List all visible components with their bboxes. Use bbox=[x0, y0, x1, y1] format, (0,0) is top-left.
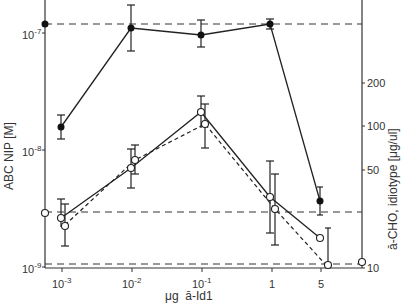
y-right-tick-label: 50 bbox=[367, 164, 379, 176]
series-open-dashed-line bbox=[65, 124, 326, 265]
x-tick-label: 1 bbox=[269, 278, 275, 290]
series-filled-line bbox=[61, 24, 320, 201]
error-bars bbox=[57, 5, 331, 264]
y-tick-label: 10-9 bbox=[22, 261, 42, 275]
y-right-tick-label: 10 bbox=[367, 262, 379, 274]
x-axis-title: μg ā-Id1 bbox=[165, 289, 213, 303]
y-tick-label: 10-8 bbox=[22, 144, 42, 158]
y-tick-label: 10-7 bbox=[22, 27, 42, 41]
x-tick-label: 10-2 bbox=[122, 276, 142, 290]
series-open-solid-line bbox=[61, 112, 320, 238]
chart: 10-7 10-8 10-9 200 100 50 10 10-3 10-2 1… bbox=[0, 0, 403, 304]
y-right-tick-label: 100 bbox=[367, 120, 385, 132]
y-axis-title: ABC NIP [M] bbox=[2, 122, 16, 190]
y-right-axis-title: ā-CHO, idiotype [μg/ul] bbox=[386, 128, 400, 250]
x-tick-label: 5 bbox=[318, 278, 324, 290]
y-right-tick-label: 200 bbox=[367, 77, 385, 89]
series-filled-markers bbox=[42, 21, 324, 205]
x-tick-label: 10-3 bbox=[52, 276, 72, 290]
x-tick-label: 10-1 bbox=[192, 276, 212, 290]
